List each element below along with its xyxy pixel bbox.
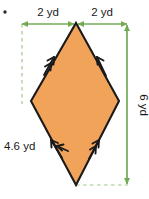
label-right: 6 yd: [138, 94, 149, 116]
label-top-left: 2 yd: [37, 6, 59, 18]
rhombus-diagram-svg: 2 yd 2 yd 6 yd 4.6 yd: [0, 0, 149, 199]
geometry-figure: 2 yd 2 yd 6 yd 4.6 yd: [0, 0, 149, 199]
label-top-right: 2 yd: [91, 6, 113, 18]
label-left-side: 4.6 yd: [4, 140, 35, 152]
bullet-marker: [3, 10, 6, 13]
